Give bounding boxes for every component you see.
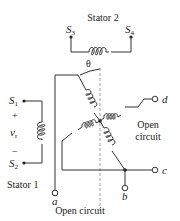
terminal-c-label: c <box>162 164 167 176</box>
stator-2-label: Stator 2 <box>87 12 118 23</box>
rotor-coil-1-icon <box>86 90 97 107</box>
terminal-d-circle <box>152 96 158 102</box>
stator-1-coil-icon <box>38 122 46 140</box>
terminal-s3-label: S3 <box>66 23 76 37</box>
rotor-coil-d-icon <box>100 114 121 121</box>
open-circuit-right-line1: Open <box>137 119 159 130</box>
stator-2-coil-icon <box>89 48 109 56</box>
terminal-b-label: b <box>122 190 128 202</box>
terminal-s2-label: S2 <box>9 157 19 171</box>
stator-2: Stator 2 S3 S4 <box>66 12 135 55</box>
stator-1: S1 + vr − S2 Stator 1 <box>7 94 45 190</box>
angle-arc <box>80 69 100 75</box>
synchro-transformer-diagram: Stator 2 S3 S4 θ S1 + vr − S2 Stator 1 <box>0 0 180 221</box>
rotor-coil-b-icon <box>104 128 115 145</box>
terminal-d-label: d <box>162 93 168 105</box>
terminal-s4-label: S4 <box>125 23 135 37</box>
voltage-label: vr <box>10 126 18 140</box>
stator-1-label: Stator 1 <box>7 179 38 190</box>
minus-sign: − <box>12 146 18 157</box>
terminal-c-circle <box>152 167 158 173</box>
theta-label: θ <box>86 58 91 69</box>
plus-sign: + <box>12 110 18 121</box>
open-circuit-bottom-label: Open circuit <box>55 205 105 216</box>
terminal-s1-label: S1 <box>9 94 19 108</box>
open-circuit-right-line2: circuit <box>135 131 161 142</box>
rotor-coil-left-icon <box>78 120 100 130</box>
